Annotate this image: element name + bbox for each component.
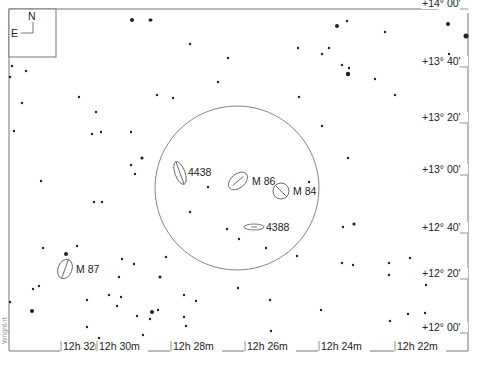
star-icon [227,57,229,59]
star-icon [341,262,343,264]
galaxy-marker: 4438 [171,160,211,186]
star-icon [298,96,300,98]
star-icon [207,186,209,188]
star-icon [348,67,350,69]
star-icon [118,276,120,278]
compass-north-label: N [28,10,36,22]
star-icon [64,252,68,256]
star-icon [156,94,158,96]
star-icon [185,325,187,327]
ra-tick-label: 12h 22m [397,340,438,352]
star-icon [140,156,143,159]
star-icon [108,294,110,296]
dec-tick-label: +13° 40' [422,55,461,67]
star-icon [226,228,228,230]
star-icon [341,64,343,66]
galaxy-label: M 87 [76,263,100,275]
star-icon [172,97,174,99]
galaxy-label: 4438 [188,166,212,178]
galaxy-marker: M 86 [225,169,275,194]
star-icon [130,18,134,22]
star-icon [347,157,349,159]
star-icon [346,20,348,22]
star-icon [195,300,197,302]
star-icon [308,181,310,183]
star-icon [464,34,469,39]
star-icon [130,131,132,133]
star-icon [346,72,350,76]
star-icon [142,334,144,336]
star-icon [270,330,272,332]
star-chart: N E 4438M 86M 844388M 87 12h 32m12h 30m1… [0,0,478,365]
star-icon [11,65,13,67]
star-icon [149,318,151,320]
star-icon [238,238,240,240]
star-icon [76,245,78,247]
star-icon [217,81,219,83]
dec-axis: +14° 00'+13° 40'+13° 20'+13° 00'+12° 40'… [421,0,468,333]
star-icon [409,257,411,259]
galaxy-label: M 84 [293,185,317,197]
star-icon [425,284,427,286]
star-icon [9,76,11,78]
star-icon [321,125,323,127]
compass-box: N E [9,9,56,57]
star-icon [183,294,185,296]
galaxies-layer: 4438M 86M 844388M 87 [55,160,317,281]
star-icon [328,47,330,49]
star-icon [265,247,267,249]
credit-text: Wright-rt [1,317,9,344]
star-icon [237,287,239,289]
star-icon [116,305,118,307]
star-icon [95,111,97,113]
star-icon [424,312,426,314]
star-icon [342,226,344,228]
star-icon [158,275,161,278]
star-icon [98,337,100,339]
star-icon [446,22,450,26]
star-icon [150,310,154,314]
star-icon [384,31,386,33]
star-icon [38,285,40,287]
star-icon [388,262,390,264]
ra-tick-label: 12h 28m [173,340,214,352]
star-icon [42,247,44,249]
star-icon [320,309,322,311]
star-icon [134,173,136,175]
star-icon [25,70,27,72]
star-icon [136,315,138,317]
star-icon [189,211,191,213]
star-icon [100,131,102,133]
dec-tick-label: +12° 40' [422,221,461,233]
star-icon [165,256,167,258]
dec-tick-label: +14° 00' [422,0,461,9]
ra-tick-label: 12h 30m [99,340,140,352]
star-icon [32,288,34,290]
star-icon [120,296,122,298]
dec-tick-label: +12° 20' [422,267,461,279]
star-icon [86,299,88,301]
star-icon [40,180,42,182]
star-icon [133,263,135,265]
star-icon [389,320,391,322]
dec-tick-label: +13° 00' [422,163,461,175]
galaxy-label: M 86 [252,175,276,187]
star-icon [352,222,355,225]
star-icon [21,102,23,104]
star-icon [13,130,15,132]
galaxy-label: 4388 [266,221,290,233]
star-icon [394,94,396,96]
star-icon [269,299,271,301]
star-icon [321,53,323,55]
dec-tick-label: +13° 20' [422,111,461,123]
ra-tick-label: 12h 26m [247,340,288,352]
star-icon [86,326,88,328]
star-icon [183,316,185,318]
star-icon [130,164,132,166]
star-icon [30,309,34,313]
star-icon [93,201,95,203]
compass-east-label: E [11,27,18,39]
galaxy-marker: 4388 [244,221,290,233]
star-icon [407,313,409,315]
star-icon [335,24,339,28]
